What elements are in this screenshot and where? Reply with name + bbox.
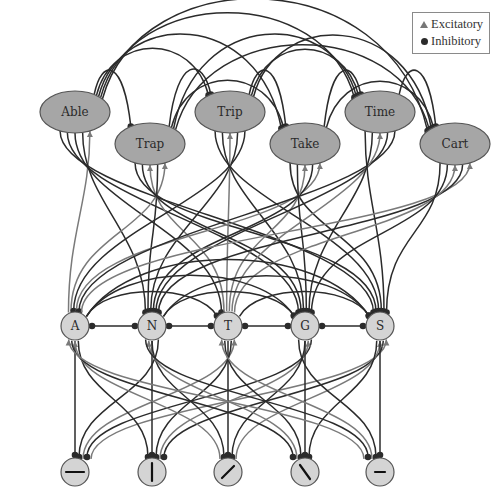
legend-excitatory-label: Excitatory xyxy=(431,17,483,32)
inhibitory-terminal xyxy=(161,454,168,461)
excitatory-arrowhead xyxy=(302,165,308,171)
feature-node-short-dash xyxy=(366,458,394,486)
letter-node-s: S xyxy=(366,312,394,340)
excitatory-arrowhead xyxy=(219,340,225,346)
feature-node-forward-slash xyxy=(214,458,242,486)
legend-inhibitory-label: Inhibitory xyxy=(431,34,481,49)
letter-node-a: A xyxy=(61,312,89,340)
inhibitory-terminal xyxy=(208,323,215,330)
feature-node-horizontal-line xyxy=(61,458,89,486)
excitatory-arrowhead xyxy=(227,133,233,139)
excitatory-arrowhead xyxy=(66,340,72,346)
feature-node-vertical-line xyxy=(138,458,166,486)
letter-node-label: G xyxy=(300,319,310,333)
legend: Excitatory Inhibitory xyxy=(412,12,490,54)
word-node-trip: Trip xyxy=(195,91,265,133)
excitatory-arrowhead xyxy=(377,133,383,139)
word-node-cart: Cart xyxy=(420,123,490,165)
legend-inhibitory: Inhibitory xyxy=(417,33,485,50)
inhibitory-connection xyxy=(101,13,355,98)
word-node-label: Trip xyxy=(217,105,243,119)
letter-node-label: N xyxy=(147,319,158,333)
inhibitory-terminal xyxy=(290,454,297,461)
inhibitory-terminal xyxy=(377,452,384,459)
inhibitory-connection xyxy=(309,341,377,457)
excitatory-arrowhead xyxy=(231,340,237,346)
inhibitory-terminal xyxy=(84,454,91,461)
inhibitory-terminal xyxy=(319,323,326,330)
excitatory-arrowhead xyxy=(452,165,458,171)
word-node-label: Trap xyxy=(136,137,165,151)
network-canvas: AbleTrapTripTakeTimeCartANTGS xyxy=(0,0,496,502)
letter-node-n: N xyxy=(138,312,166,340)
interactive-activation-network-diagram: AbleTrapTripTakeTimeCartANTGS Excitatory… xyxy=(0,0,496,502)
word-node-time: Time xyxy=(345,91,415,133)
letter-node-label: T xyxy=(224,319,232,333)
excitatory-connection xyxy=(82,163,470,312)
inhibitory-terminal xyxy=(365,454,372,461)
word-node-label: Able xyxy=(60,105,88,119)
word-node-label: Time xyxy=(365,105,395,119)
word-node-label: Cart xyxy=(442,137,469,151)
inhibitory-terminal xyxy=(89,323,96,330)
excitatory-connection xyxy=(236,341,380,459)
letter-node-label: S xyxy=(376,319,384,333)
letter-node-t: T xyxy=(214,312,242,340)
inhibitory-terminal xyxy=(285,323,292,330)
connections xyxy=(60,0,473,460)
inhibitory-terminal xyxy=(132,323,139,330)
inhibitory-terminal xyxy=(166,323,173,330)
word-node-take: Take xyxy=(270,123,340,165)
word-node-able: Able xyxy=(40,91,110,133)
inhibitory-terminal xyxy=(242,323,249,330)
legend-excitatory: Excitatory xyxy=(417,16,485,33)
letter-node-label: A xyxy=(70,319,80,333)
excitatory-arrowhead xyxy=(147,165,153,171)
excitatory-connection xyxy=(75,341,220,459)
letter-node-g: G xyxy=(291,312,319,340)
inhibitory-connection xyxy=(78,341,148,457)
feature-node-back-slash xyxy=(291,458,319,486)
word-node-trap: Trap xyxy=(115,123,185,165)
inhibitory-terminal xyxy=(360,323,367,330)
circle-dot-icon xyxy=(417,38,431,45)
word-node-label: Take xyxy=(291,137,320,151)
triangle-arrowhead-icon xyxy=(417,21,431,28)
excitatory-arrowhead xyxy=(383,340,389,346)
excitatory-connection xyxy=(222,340,372,459)
inhibitory-connection xyxy=(387,163,441,312)
